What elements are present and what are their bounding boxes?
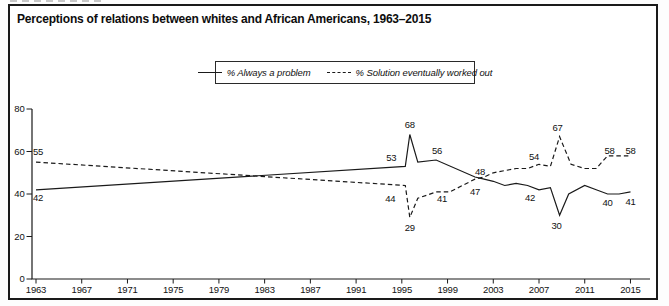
point-label: 42	[33, 192, 43, 203]
point-label: 47	[470, 186, 480, 197]
x-tick-label: 1963	[26, 284, 46, 295]
point-label: 58	[605, 145, 615, 156]
x-tick-label: 1967	[72, 284, 92, 295]
x-tick-label: 1995	[392, 284, 412, 295]
point-label: 58	[625, 145, 635, 156]
y-tick-label: 20	[14, 231, 24, 242]
x-tick-label: 2011	[575, 284, 595, 295]
x-tick-label: 1987	[300, 284, 320, 295]
point-label: 30	[552, 220, 562, 231]
point-label: 41	[437, 193, 447, 204]
point-label: 56	[432, 145, 442, 156]
point-label: 55	[33, 146, 43, 157]
series-line-solution	[36, 137, 631, 218]
point-label: 40	[603, 197, 613, 208]
figure: Perceptions of relations between whites …	[0, 0, 669, 306]
y-tick-label: 60	[14, 146, 24, 157]
x-axis-ticks: 1963196719711975197919831987199119951999…	[26, 279, 641, 295]
point-label: 42	[525, 192, 535, 203]
x-tick-label: 2003	[483, 284, 503, 295]
x-tick-label: 1983	[254, 284, 274, 295]
point-label: 41	[625, 196, 635, 207]
x-tick-label: 2015	[620, 284, 640, 295]
point-label: 48	[475, 166, 485, 177]
point-label: 53	[386, 152, 396, 163]
point-label: 29	[405, 222, 415, 233]
x-tick-label: 1991	[346, 284, 366, 295]
axes	[32, 109, 650, 279]
y-tick-label: 80	[14, 103, 24, 114]
point-label: 54	[529, 151, 539, 162]
series-line-always	[36, 135, 631, 216]
point-label: 67	[553, 122, 563, 133]
point-labels: 554253446829564148475442673058584041	[33, 119, 636, 233]
x-tick-label: 1975	[163, 284, 183, 295]
x-tick-label: 1999	[437, 284, 457, 295]
y-tick-label: 40	[14, 188, 24, 199]
point-label: 44	[385, 193, 395, 204]
y-tick-label: 0	[19, 273, 24, 284]
plot-area: 0204060801963196719711975197919831987199…	[0, 0, 669, 306]
y-axis-ticks: 020406080	[14, 103, 32, 284]
x-tick-label: 1971	[117, 284, 137, 295]
x-tick-label: 1979	[209, 284, 229, 295]
x-tick-label: 2007	[529, 284, 549, 295]
point-label: 68	[405, 119, 415, 130]
